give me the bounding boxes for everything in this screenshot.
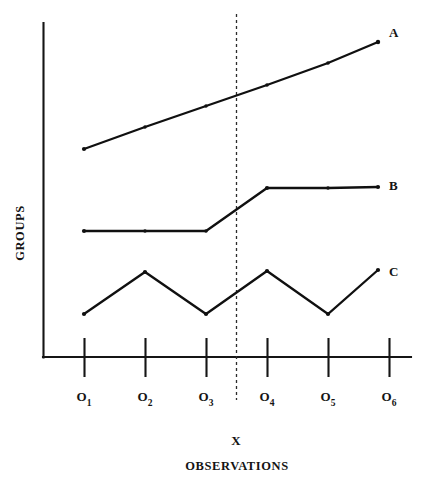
series-b-point-1	[82, 229, 86, 233]
chart-container: A B C O1 O2 O3 O4 O5 O6 X	[0, 0, 426, 484]
series-a-line	[84, 42, 378, 149]
series-a-point-4	[265, 83, 269, 87]
series-a-point-6	[376, 40, 380, 44]
series-b-label: B	[389, 178, 398, 193]
series-c-line	[84, 270, 378, 314]
x-axis-title: OBSERVATIONS	[185, 459, 289, 473]
series-a-label: A	[389, 25, 399, 40]
series-c-point-3	[204, 312, 208, 316]
series-c-label: C	[389, 264, 398, 279]
x-tick-label-5: O5	[321, 389, 336, 408]
series-b-point-4	[265, 186, 269, 190]
line-chart-svg: A B C O1 O2 O3 O4 O5 O6 X	[0, 0, 426, 484]
series-b-group	[82, 185, 380, 233]
x-tick-label-2: O2	[138, 389, 153, 408]
y-axis-title: GROUPS	[13, 205, 27, 261]
series-a-point-5	[326, 61, 330, 65]
series-c-point-4	[265, 269, 269, 273]
series-b-point-5	[326, 186, 330, 190]
x-tick-label-6: O6	[382, 389, 397, 408]
series-a-point-2	[143, 125, 146, 128]
series-a-point-3	[204, 104, 207, 107]
series-b-point-2	[143, 229, 147, 233]
x-tick-label-1: O1	[77, 389, 92, 408]
x-tick-label-3: O3	[199, 389, 214, 408]
series-c-point-5	[326, 312, 330, 316]
series-c-point-2	[143, 270, 147, 274]
x-tick-label-4: O4	[260, 389, 275, 408]
intervention-label: X	[231, 433, 241, 448]
series-c-point-1	[82, 312, 86, 316]
series-a-point-1	[82, 147, 86, 151]
series-b-point-6	[376, 185, 380, 189]
series-b-point-3	[204, 229, 208, 233]
series-b-line	[84, 187, 378, 231]
series-c-group	[82, 268, 380, 316]
series-c-point-6	[376, 268, 380, 272]
series-a-group	[82, 40, 380, 151]
